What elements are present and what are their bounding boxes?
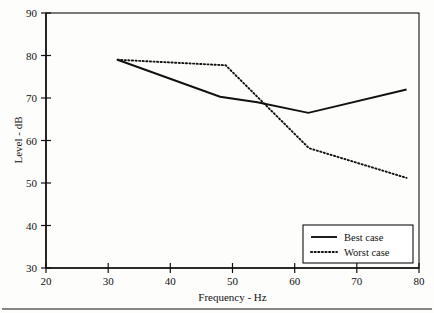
x-tick-label-80: 80 — [414, 275, 426, 287]
y-tick-label-70: 70 — [26, 92, 38, 104]
y-axis-title: Level - dB — [12, 116, 24, 163]
y-tick-label-60: 60 — [26, 135, 38, 147]
y-tick-label-40: 40 — [26, 220, 38, 232]
legend-label-best-case: Best case — [344, 232, 384, 243]
chart-legend: Best case Worst case — [303, 225, 413, 263]
legend-label-worst-case: Worst case — [344, 247, 390, 258]
y-axis-tick-labels: 90 80 70 60 50 40 30 — [26, 7, 38, 274]
series-worst-case — [117, 60, 406, 178]
series-best-case — [117, 60, 406, 113]
x-axis-title: Frequency - Hz — [198, 291, 267, 303]
figure-container: 90 80 70 60 50 40 30 20 30 40 50 60 70 8… — [0, 0, 434, 313]
y-tick-label-90: 90 — [26, 7, 38, 19]
x-tick-label-40: 40 — [165, 275, 177, 287]
y-tick-label-30: 30 — [26, 262, 38, 274]
y-tick-label-80: 80 — [26, 50, 38, 62]
x-axis-tick-labels: 20 30 40 50 60 70 80 — [41, 275, 426, 287]
x-tick-label-70: 70 — [351, 275, 363, 287]
line-chart: 90 80 70 60 50 40 30 20 30 40 50 60 70 8… — [0, 0, 434, 313]
y-tick-label-50: 50 — [26, 177, 38, 189]
x-tick-label-50: 50 — [227, 275, 239, 287]
x-tick-label-30: 30 — [103, 275, 115, 287]
x-tick-label-60: 60 — [289, 275, 301, 287]
x-tick-label-20: 20 — [41, 275, 53, 287]
